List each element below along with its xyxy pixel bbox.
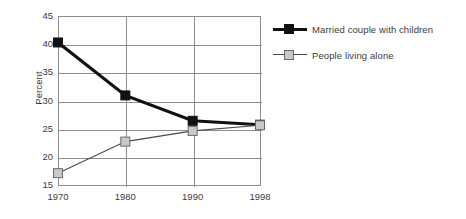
line-chart-figure: Percent 15202530354045 1970198019901998 … (0, 0, 466, 219)
x-axis-tick-label: 1980 (95, 191, 155, 202)
data-point-marker (256, 121, 265, 130)
data-series-layer (58, 16, 261, 186)
data-point-marker (54, 169, 63, 178)
data-point-marker (121, 91, 130, 100)
data-point-marker (188, 126, 197, 135)
series-line (58, 125, 260, 173)
x-axis-tick-label: 1998 (230, 191, 290, 202)
legend-swatch-light-square-marker (273, 48, 307, 62)
legend-item-people-living-alone: People living alone (273, 42, 466, 68)
legend-label: Married couple with children (307, 24, 433, 35)
legend-label: People living alone (307, 50, 394, 61)
legend-item-married-couple-with-children: Married couple with children (273, 16, 466, 42)
series-line (58, 42, 260, 124)
x-axis-tick-label: 1970 (28, 191, 88, 202)
data-point-marker (121, 137, 130, 146)
x-axis-tick-label: 1990 (163, 191, 223, 202)
chart-legend: Married couple with children People livi… (273, 16, 466, 68)
legend-swatch-dark-square-marker (273, 22, 307, 36)
data-point-marker (54, 38, 63, 47)
data-point-marker (188, 116, 197, 125)
